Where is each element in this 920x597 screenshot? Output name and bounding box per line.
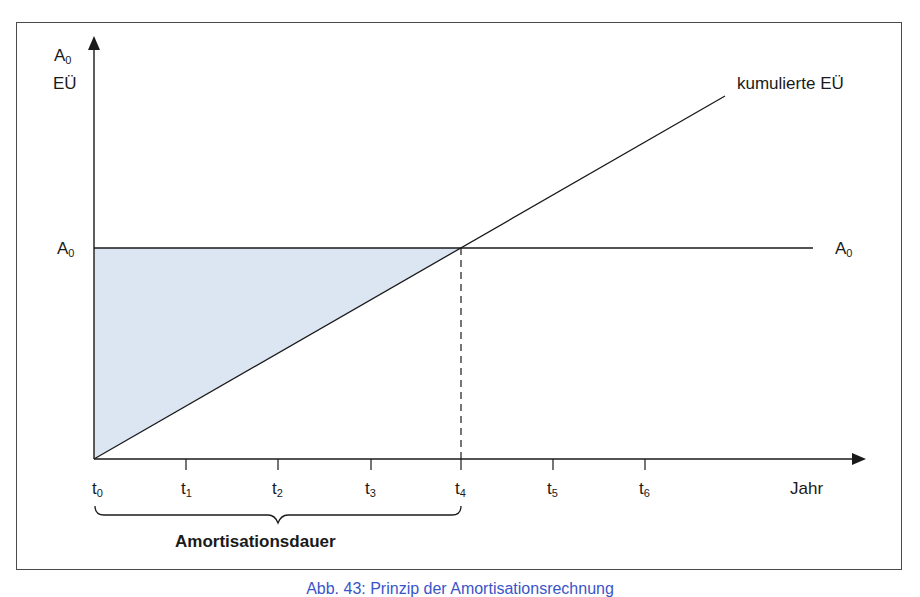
duration-brace (95, 506, 461, 523)
tick-label-t0: t0 (92, 480, 103, 499)
a0-label-left: A0 (57, 240, 74, 259)
cumulative-label: kumulierte EÜ (737, 75, 844, 92)
y-axis-arrow-icon (88, 36, 100, 50)
figure-caption: Abb. 43: Prinzip der Amortisationsrechnu… (0, 581, 920, 597)
x-ticks (186, 459, 645, 470)
tick-label-t2: t2 (272, 480, 283, 499)
y-axis-label-a0: A0 (54, 47, 71, 66)
tick-label-t6: t6 (639, 480, 650, 499)
x-axis-arrow-icon (852, 453, 866, 465)
tick-label-t4: t4 (455, 480, 466, 499)
x-axis-label: Jahr (790, 480, 823, 497)
y-axis-label-eu: EÜ (53, 75, 77, 92)
tick-label-t1: t1 (181, 480, 192, 499)
tick-label-t3: t3 (365, 480, 376, 499)
brace-label: Amortisationsdauer (175, 533, 336, 550)
a0-label-right: A0 (835, 240, 852, 259)
tick-label-t5: t5 (547, 480, 558, 499)
